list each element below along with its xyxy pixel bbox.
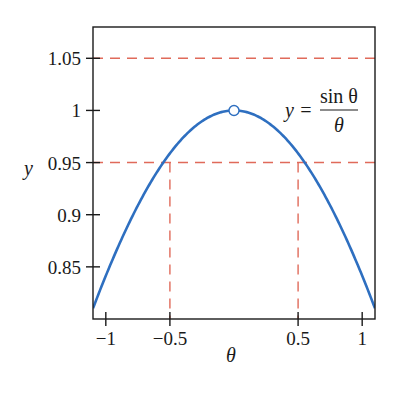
- sinc-curve: [93, 110, 375, 308]
- x-axis-label: θ: [226, 344, 236, 366]
- formula-annotation: y = sin θ θ: [283, 85, 358, 136]
- formula-numerator: sin θ: [320, 85, 358, 107]
- hole-marker: [229, 105, 239, 115]
- x-tick-label: −0.5: [153, 328, 187, 349]
- y-axis-label: y: [22, 157, 33, 180]
- y-axis-ticks: 0.850.90.9511.05: [48, 48, 100, 278]
- y-tick-label: 1.05: [48, 48, 81, 69]
- x-tick-label: −1: [96, 328, 116, 349]
- curve-layer: [93, 110, 375, 308]
- x-tick-label: 0.5: [286, 328, 310, 349]
- y-tick-label: 1: [72, 100, 82, 121]
- formula-denominator: θ: [334, 114, 344, 136]
- chart: −1−0.50.51 0.850.90.9511.05 y θ y = sin …: [0, 0, 397, 395]
- y-tick-label: 0.95: [48, 153, 81, 174]
- x-tick-label: 1: [357, 328, 367, 349]
- y-tick-label: 0.85: [48, 257, 81, 278]
- formula-lhs: y =: [283, 99, 312, 122]
- plot-frame: [93, 27, 375, 319]
- y-tick-label: 0.9: [57, 205, 81, 226]
